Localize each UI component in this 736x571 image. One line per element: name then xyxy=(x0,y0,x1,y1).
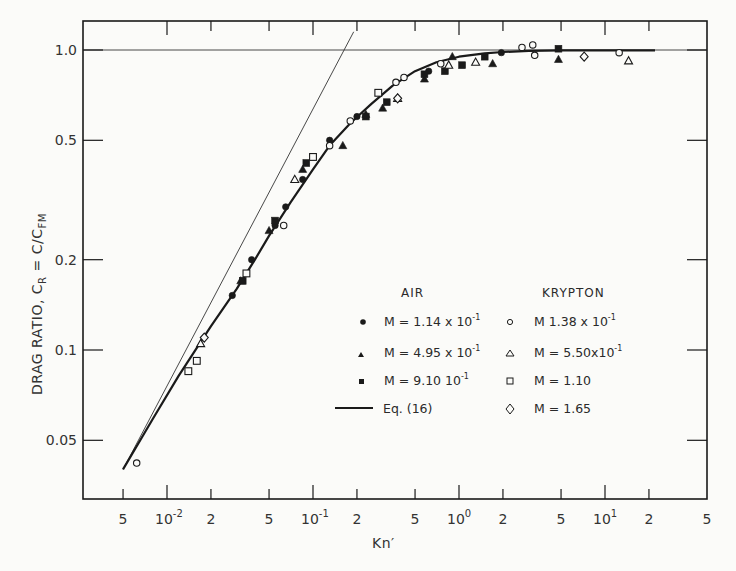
open-circle-icon xyxy=(530,42,536,48)
open-square-icon xyxy=(310,154,317,161)
x-tick-label: 5 xyxy=(557,511,566,527)
filled-triangle-icon xyxy=(489,60,497,67)
x-tick-label: 5 xyxy=(411,511,420,527)
svg-text:M = 1.14 x 10-1: M = 1.14 x 10-1 xyxy=(384,313,480,329)
open-square-icon xyxy=(507,378,513,384)
filled-triangle-icon xyxy=(448,52,456,59)
open-triangle-icon xyxy=(291,175,299,182)
open-circle-icon xyxy=(281,222,287,228)
x-tick-label: 100 xyxy=(447,508,471,527)
legend-item-kr-m165: M = 1.65 xyxy=(506,401,591,416)
x-tick-label: 10-2 xyxy=(155,508,183,527)
plot-frame xyxy=(83,21,707,499)
open-circle-icon xyxy=(519,44,525,50)
open-triangle-icon xyxy=(506,350,514,356)
open-square-icon xyxy=(375,89,382,96)
svg-text:M = 1.65: M = 1.65 xyxy=(534,401,591,416)
filled-circle-icon xyxy=(229,292,235,298)
legend-heading-krypton: KRYPTON xyxy=(542,286,605,300)
filled-circle-icon xyxy=(498,49,504,55)
filled-square-icon xyxy=(383,99,390,106)
x-tick-label: 10-1 xyxy=(301,508,329,527)
continuum-asymptote-line xyxy=(123,32,354,470)
svg-text:Eq. (16): Eq. (16) xyxy=(383,401,432,416)
open-circle-icon xyxy=(616,49,622,55)
open-circle-icon xyxy=(507,319,512,324)
filled-triangle-icon xyxy=(339,141,347,148)
open-circle-icon xyxy=(326,142,332,148)
filled-circle-icon xyxy=(299,176,305,182)
open-circle-icon xyxy=(347,118,353,124)
y-tick-label: 0.1 xyxy=(55,342,77,358)
open-triangle-icon xyxy=(472,58,480,65)
filled-square-icon xyxy=(239,277,246,284)
filled-triangle-icon xyxy=(554,55,562,62)
open-circle-icon xyxy=(438,61,444,67)
x-tick-label: 2 xyxy=(644,511,653,527)
filled-circle-icon xyxy=(282,204,288,210)
x-tick-label: 2 xyxy=(206,511,215,527)
svg-text:M = 1.10: M = 1.10 xyxy=(534,373,591,388)
x-tick-label: 5 xyxy=(265,511,274,527)
open-diamond-icon xyxy=(580,52,588,61)
y-tick-label: 0.2 xyxy=(55,252,77,268)
open-triangle-icon xyxy=(445,61,453,68)
x-tick-label: 101 xyxy=(593,508,617,527)
y-axis-ticks: 1.00.50.20.10.05 xyxy=(46,42,707,448)
filled-triangle-icon xyxy=(358,352,364,357)
x-tick-label: 2 xyxy=(352,511,361,527)
legend: AIR KRYPTON M = 1.14 x 10-1 M = 4.95 x 1… xyxy=(335,286,622,416)
legend-item-kr-m138: M 1.38 x 10-1 xyxy=(507,313,615,329)
plot-border xyxy=(83,21,707,499)
filled-circle-icon xyxy=(354,113,360,119)
filled-square-icon xyxy=(555,45,562,52)
filled-square-icon xyxy=(362,113,369,120)
svg-text:M = 9.10 10-1: M = 9.10 10-1 xyxy=(384,372,469,388)
y-tick-label: 0.05 xyxy=(46,432,77,448)
x-axis-ticks: 510-22510-1251002510125 xyxy=(119,21,712,527)
legend-heading-air: AIR xyxy=(401,286,424,300)
legend-item-eq16: Eq. (16) xyxy=(335,401,432,416)
x-tick-label: 2 xyxy=(498,511,507,527)
filled-circle-icon xyxy=(248,256,254,262)
legend-item-kr-m110: M = 1.10 xyxy=(507,373,591,388)
filled-square-icon xyxy=(272,217,279,224)
open-square-icon xyxy=(243,270,250,277)
y-tick-label: 1.0 xyxy=(55,42,77,58)
open-circle-icon xyxy=(393,79,399,85)
x-tick-label: 5 xyxy=(703,511,712,527)
legend-item-air-m495: M = 4.95 x 10-1 xyxy=(358,344,480,360)
open-circle-icon xyxy=(133,460,139,466)
legend-item-air-m910: M = 9.10 10-1 xyxy=(359,372,469,388)
open-circle-icon xyxy=(532,52,538,58)
filled-square-icon xyxy=(303,160,310,167)
open-square-icon xyxy=(185,368,192,375)
open-diamond-icon xyxy=(506,404,514,414)
y-tick-label: 0.5 xyxy=(55,132,77,148)
open-square-icon xyxy=(193,357,200,364)
filled-square-icon xyxy=(481,53,488,60)
drag-ratio-chart: 510-22510-1251002510125 1.00.50.20.10.05… xyxy=(0,0,736,571)
x-axis-title: Kn′ xyxy=(372,535,395,551)
legend-item-kr-m550: M = 5.50x10-1 xyxy=(506,344,622,360)
svg-text:M = 5.50x10-1: M = 5.50x10-1 xyxy=(534,344,622,360)
filled-circle-icon xyxy=(360,319,366,325)
legend-item-air-m114: M = 1.14 x 10-1 xyxy=(360,313,480,329)
filled-square-icon xyxy=(359,379,364,384)
filled-square-icon xyxy=(459,62,466,69)
y-axis-title: DRAG RATIO, CR = C/CFM xyxy=(29,213,48,395)
open-circle-icon xyxy=(401,74,407,80)
svg-text:M 1.38 x 10-1: M 1.38 x 10-1 xyxy=(534,313,616,329)
x-tick-label: 5 xyxy=(119,511,128,527)
filled-square-icon xyxy=(441,68,448,75)
svg-text:M = 4.95 x 10-1: M = 4.95 x 10-1 xyxy=(384,344,480,360)
open-triangle-icon xyxy=(625,57,633,64)
filled-square-icon xyxy=(421,71,428,78)
